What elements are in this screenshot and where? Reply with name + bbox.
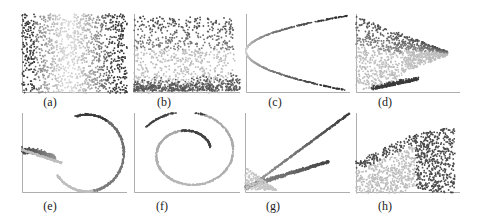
scatter-plot-b <box>134 14 240 93</box>
scatter-panel-e <box>22 113 127 193</box>
panel-caption-g: (g) <box>253 199 293 214</box>
panel-caption-a: (a) <box>30 95 70 110</box>
panel-caption-d: (d) <box>365 95 405 110</box>
scatter-plot-e <box>22 113 127 193</box>
panel-caption-f: (f) <box>142 199 182 214</box>
axes <box>23 14 128 93</box>
scatter-panel-g <box>245 113 350 193</box>
scatter-panel-f <box>134 113 240 193</box>
scatter-plot-a <box>22 14 127 93</box>
scatter-plot-f <box>134 113 240 193</box>
scatter-plot-h <box>356 113 460 193</box>
panel-caption-b: (b) <box>144 95 184 110</box>
scatter-plot-g <box>245 113 350 193</box>
panel-caption-e: (e) <box>30 199 70 214</box>
scatter-panel-a <box>22 14 127 93</box>
scatter-panel-b <box>134 14 240 93</box>
scatter-plot-d <box>356 14 460 93</box>
scatter-panel-h <box>356 113 460 193</box>
scatter-panel-c <box>246 14 350 93</box>
scatter-plot-c <box>246 14 350 93</box>
panel-caption-h: (h) <box>365 199 405 214</box>
scatter-panel-d <box>356 14 460 93</box>
panel-caption-c: (c) <box>255 95 295 110</box>
axes <box>135 113 241 193</box>
